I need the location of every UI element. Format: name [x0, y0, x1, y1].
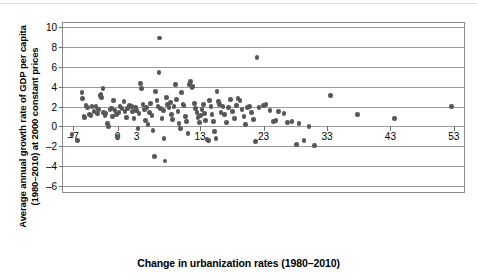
scatter-point [95, 111, 100, 116]
scatter-point [138, 81, 143, 86]
scatter-point [89, 113, 94, 118]
scatter-point [294, 142, 299, 147]
scatter-point [80, 96, 85, 101]
y-tick-label: 6 [51, 61, 57, 72]
y-tick-label: –4 [46, 161, 57, 172]
scatter-point [150, 113, 155, 118]
y-tick-label: 10 [46, 21, 57, 32]
scatter-point [276, 109, 281, 114]
scatter-point [139, 86, 144, 91]
scatter-point [251, 117, 256, 122]
scatter-point [214, 136, 219, 141]
x-tick-label: 13 [194, 131, 205, 142]
scatter-point [188, 79, 193, 84]
scatter-point [178, 126, 183, 131]
scatter-point [148, 101, 153, 106]
y-tick-label: 0 [51, 121, 57, 132]
scatter-point [240, 107, 245, 112]
y-tick-label: 2 [51, 101, 57, 112]
scatter-point [290, 119, 295, 124]
scatter-point [302, 138, 307, 143]
y-tick-label: 8 [51, 41, 57, 52]
scatter-point [268, 108, 273, 113]
scatter-point [99, 95, 104, 100]
y-gridline [63, 67, 464, 68]
y-gridline [63, 166, 464, 167]
scatter-point [328, 93, 333, 98]
x-tick-label: 23 [258, 131, 269, 142]
scatter-point [136, 126, 141, 131]
y-gridline [63, 27, 464, 28]
scatter-point [221, 104, 226, 109]
scatter-point [201, 102, 206, 107]
scatter-point [238, 98, 243, 103]
scatter-point [282, 111, 287, 116]
scatter-point [392, 116, 397, 121]
scatter-point [192, 101, 197, 106]
scatter-point [307, 124, 312, 129]
x-axis-title: Change in urbanization rates (1980–2010) [0, 257, 477, 269]
scatter-point [209, 104, 214, 109]
y-tick-mark [59, 67, 63, 68]
scatter-point [173, 82, 178, 87]
scatter-point [222, 112, 227, 117]
scatter-point [202, 111, 207, 116]
scatter-point [243, 122, 248, 127]
y-tick-mark [59, 107, 63, 108]
scatter-point [170, 117, 175, 122]
scatter-point [96, 107, 101, 112]
y-tick-mark [59, 146, 63, 147]
scatter-point [212, 129, 217, 134]
scatter-point [242, 114, 247, 119]
x-tick-label: 3 [134, 131, 140, 142]
scatter-point [167, 105, 172, 110]
scatter-point [169, 112, 174, 117]
scatter-point [224, 120, 229, 125]
scatter-point [179, 90, 184, 95]
scatter-point [355, 112, 360, 117]
y-tick-mark [59, 27, 63, 28]
y-tick-mark [59, 186, 63, 187]
scatter-point [155, 98, 160, 103]
scatter-point [124, 115, 129, 120]
scatter-point [211, 119, 216, 124]
scatter-point [203, 118, 208, 123]
scatter-point [75, 138, 80, 143]
x-axis-tick-band [62, 194, 465, 214]
scatter-point [162, 136, 167, 141]
scatter-point [177, 121, 182, 126]
scatter-point [153, 89, 158, 94]
y-axis-title-line1: Average annual growth rate of GDP per ca… [17, 25, 28, 228]
y-tick-mark [59, 126, 63, 127]
scatter-point [111, 98, 116, 103]
scatter-point [137, 111, 142, 116]
scatter-point [106, 124, 111, 129]
scatter-point [264, 102, 269, 107]
scatter-point [234, 103, 239, 108]
scatter-point [232, 116, 237, 121]
scatter-point [70, 132, 75, 137]
y-tick-label: –2 [46, 141, 57, 152]
scatter-point [215, 89, 220, 94]
scatter-point [274, 118, 279, 123]
scatter-point [210, 112, 215, 117]
scatter-point [297, 121, 302, 126]
scatter-point [230, 109, 235, 114]
scatter-point [174, 97, 179, 102]
y-gridline [63, 186, 464, 187]
scatter-point [255, 55, 260, 60]
y-axis-title-line2: (1980–2010) at 2000 constant prices [28, 13, 40, 241]
scatter-point [115, 134, 120, 139]
y-gridline [63, 87, 464, 88]
scatter-point [144, 105, 149, 110]
scatter-chart-figure: Average annual growth rate of GDP per ca… [0, 0, 477, 277]
scatter-point [160, 116, 165, 121]
scatter-point [101, 86, 106, 91]
scatter-point [197, 120, 202, 125]
y-gridline [63, 47, 464, 48]
scatter-point [163, 159, 168, 164]
scatter-point [172, 104, 177, 109]
scatter-point [183, 114, 188, 119]
scatter-point [122, 99, 127, 104]
y-tick-mark [59, 87, 63, 88]
